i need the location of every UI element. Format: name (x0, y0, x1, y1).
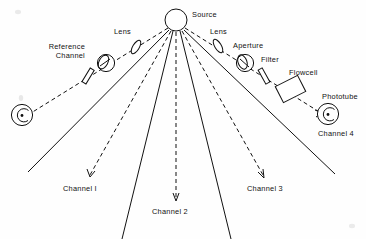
label-reference-channel-line1: Reference (49, 42, 85, 51)
label-aperture: Aperture (233, 41, 263, 50)
flowcell-icon (275, 75, 305, 102)
paper-smudge (349, 224, 355, 228)
optical-diagram: Source Lens Reference Channel Lens Apert… (0, 0, 366, 239)
filter-left-icon (82, 68, 94, 84)
label-phototube: Phototube (322, 92, 358, 101)
label-channel-3: Channel 3 (247, 184, 283, 193)
label-filter: Filter (261, 55, 279, 64)
ray-solid-outer-left (28, 30, 169, 172)
lens-left-icon (129, 39, 142, 55)
filter-right-icon (258, 68, 270, 84)
label-source: Source (192, 10, 217, 19)
source-component (165, 9, 187, 31)
label-reference-channel-line2: Channel (56, 51, 85, 60)
paper-smudge (15, 10, 21, 14)
label-channel-4: Channel 4 (318, 129, 354, 138)
paper-smudge (19, 95, 23, 101)
label-flowcell: Flowcell (289, 68, 318, 77)
lens-right-icon (211, 38, 224, 54)
branch-measurement-right (211, 38, 338, 125)
label-channel-2: Channel 2 (152, 207, 188, 216)
ray-channel-1 (90, 31, 171, 175)
label-group: Source Lens Reference Channel Lens Apert… (49, 10, 358, 216)
label-lens-left: Lens (114, 27, 131, 36)
arrowhead-channel-3 (258, 169, 264, 178)
phototube-left-dot (21, 114, 24, 117)
ray-solid-outer-right (184, 30, 335, 174)
diagram-canvas: Source Lens Reference Channel Lens Apert… (0, 0, 366, 239)
label-lens-right: Lens (210, 27, 227, 36)
phototube-right-dot (327, 113, 330, 116)
label-channel-1: Channel I (63, 184, 97, 193)
source-circle (165, 9, 187, 31)
